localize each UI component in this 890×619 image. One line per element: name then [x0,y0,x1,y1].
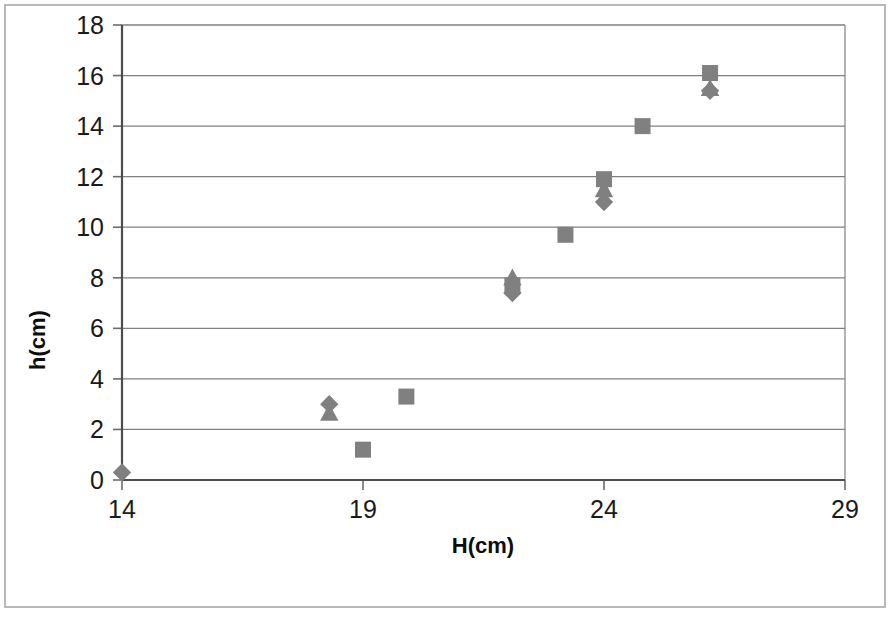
x-tick-label-14: 14 [108,495,136,523]
y-tick-label-10: 10 [76,213,104,241]
y-tick-labels-group: 024681012141618 [76,11,104,494]
x-tick-label-24: 24 [590,495,618,523]
x-tick-label-29: 29 [831,495,859,523]
data-point-triangle-1 [503,269,521,286]
y-tick-label-14: 14 [76,112,104,140]
data-point-diamond-0 [113,463,131,481]
data-point-square-1 [398,389,414,405]
y-tick-label-6: 6 [90,314,104,342]
y-tick-label-16: 16 [76,62,104,90]
y-tick-label-8: 8 [90,264,104,292]
x-axis-title: H(cm) [452,533,514,558]
data-point-triangle-3 [701,79,719,96]
scatter-chart: 024681012141618 14192429 H(cm) h(cm) [0,0,890,619]
y-axis-title: h(cm) [25,310,50,370]
y-tick-label-4: 4 [90,365,104,393]
y-tick-label-12: 12 [76,163,104,191]
data-point-square-3 [557,227,573,243]
data-point-square-5 [635,118,651,134]
chart-screenshot: 024681012141618 14192429 H(cm) h(cm) [0,0,890,619]
plot-svg: 024681012141618 14192429 H(cm) h(cm) [0,0,890,619]
data-markers-group [113,65,719,482]
x-tick-label-19: 19 [349,495,377,523]
y-tick-label-2: 2 [90,415,104,443]
gridlines-group [122,25,845,480]
data-point-square-0 [355,442,371,458]
y-tick-label-0: 0 [90,466,104,494]
tickmarks-group [113,25,845,490]
axes-group [122,25,845,480]
data-point-square-6 [702,65,718,81]
x-tick-labels-group: 14192429 [108,495,859,523]
y-tick-label-18: 18 [76,11,104,39]
